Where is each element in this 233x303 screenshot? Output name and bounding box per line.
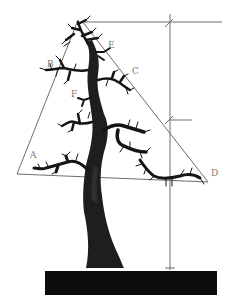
label-c: C — [132, 66, 139, 76]
label-f: F — [71, 89, 77, 99]
top-tick-mark — [165, 19, 173, 27]
bonsai-pot — [45, 271, 217, 295]
label-a: A — [29, 150, 37, 160]
branch-left-mid — [62, 114, 92, 130]
label-d: D — [211, 168, 218, 178]
tree-trunk — [83, 40, 124, 268]
branch-f — [78, 98, 90, 106]
branch-right-mid — [104, 125, 146, 152]
bonsai-diagram: E C B F A D — [0, 0, 233, 303]
branch-a — [34, 156, 88, 172]
tree-silhouette — [34, 16, 204, 268]
apex-branches — [66, 20, 98, 44]
diagram-labels: E C B F A D — [29, 40, 218, 178]
label-e: E — [108, 40, 115, 50]
branch-c — [98, 72, 130, 90]
label-b: B — [47, 59, 54, 69]
